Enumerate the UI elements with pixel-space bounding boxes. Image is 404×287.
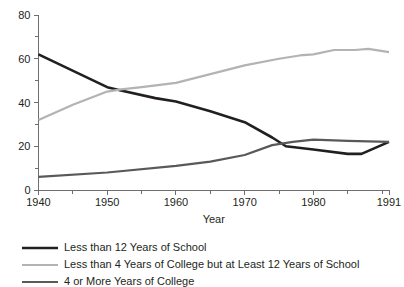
x-axis-title: Year <box>203 213 226 225</box>
legend-label-1: Less than 4 Years of College but at Leas… <box>64 258 359 270</box>
axes <box>34 15 390 195</box>
y-tick-label: 60 <box>18 53 30 65</box>
y-tick-label: 20 <box>18 140 30 152</box>
x-tick-label: 1980 <box>301 196 325 208</box>
education-attainment-line-chart: 020406080194019501960197019801991Year Le… <box>0 0 404 287</box>
chart-canvas: 020406080194019501960197019801991Year Le… <box>0 0 404 287</box>
legend-label-0: Less than 12 Years of School <box>64 241 207 253</box>
y-tick-label: 80 <box>18 9 30 21</box>
x-tick-label: 1991 <box>377 196 401 208</box>
x-tick-label: 1970 <box>232 196 256 208</box>
legend-label-2: 4 or More Years of College <box>64 275 194 287</box>
chart-legend: Less than 12 Years of SchoolLess than 4 … <box>22 241 359 287</box>
axis-lines <box>39 15 390 190</box>
y-tick-label: 0 <box>24 184 30 196</box>
series-line-0 <box>39 54 390 154</box>
x-tick-label: 1940 <box>26 196 50 208</box>
data-series <box>39 49 390 177</box>
x-tick-label: 1950 <box>95 196 119 208</box>
y-tick-label: 40 <box>18 97 30 109</box>
x-tick-label: 1960 <box>164 196 188 208</box>
series-line-2 <box>39 140 390 177</box>
axis-labels: 020406080194019501960197019801991Year <box>18 9 401 225</box>
series-line-1 <box>39 49 390 120</box>
